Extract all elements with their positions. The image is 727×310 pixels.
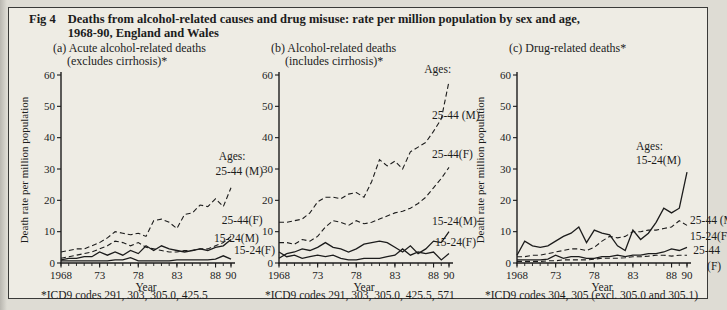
series-line [61, 236, 231, 258]
x-tick-label: 73 [312, 269, 324, 281]
series-label: 25-44 [693, 244, 720, 256]
x-axis-label: Year [135, 281, 156, 293]
panel-a: (a) Acute alcohol-related deaths (exclud… [15, 42, 245, 301]
y-tick-label: 0 [506, 257, 512, 269]
x-tick-label: 73 [94, 269, 106, 281]
panel-c-title: (c) Drug-related deaths* [509, 42, 701, 67]
y-tick-label: 30 [44, 163, 56, 175]
panel-a-title-line1: (a) Acute alcohol-related deaths [53, 41, 206, 55]
series-label: 15-24(M) [636, 154, 681, 167]
series-label: Ages: [424, 63, 451, 76]
panel-a-title-line2: (excludes cirrhosis)* [53, 55, 245, 68]
y-tick-label: 10 [262, 225, 274, 237]
panel-b: (b) Alcohol-related deaths (includes cir… [249, 42, 467, 301]
y-tick-label: 30 [262, 163, 274, 175]
y-tick-label: 30 [500, 163, 512, 175]
x-tick-label: 1968 [50, 269, 73, 281]
series-line [279, 167, 449, 244]
panel-c-ylabel: Death rate per million population [474, 72, 488, 268]
panel-b-title-line1: (b) Alcohol-related deaths [271, 41, 396, 55]
y-tick-label: 60 [500, 69, 512, 81]
panel-c: (c) Drug-related deaths* Death rate per … [471, 42, 701, 301]
x-tick-label: 78 [351, 269, 363, 281]
y-tick-label: 0 [268, 257, 274, 269]
x-tick-label: 88 [210, 269, 222, 281]
x-tick-label: 78 [133, 269, 145, 281]
x-tick-label: 83 [389, 269, 401, 281]
x-tick-label: 1968 [506, 269, 529, 281]
x-axis-label: Year [353, 281, 374, 293]
series-label: 15-24(F) [435, 236, 476, 249]
chart-panels: (a) Acute alcohol-related deaths (exclud… [9, 41, 707, 301]
y-tick-label: 60 [44, 69, 56, 81]
y-tick-label: 40 [262, 131, 274, 143]
figure-caption-line2: 1968-90, England and Wales [68, 26, 219, 40]
figure-caption: Deaths from alcohol-related causes and d… [68, 12, 580, 40]
series-label: Ages: [636, 140, 663, 153]
x-tick-label: 88 [666, 269, 678, 281]
series-label: 15-24(F) [690, 230, 727, 243]
x-tick-label: 90 [226, 269, 238, 281]
figure-title: Fig 4 Deaths from alcohol-related causes… [9, 8, 707, 41]
series-label: (F) [707, 260, 721, 273]
x-tick-label: 83 [627, 269, 639, 281]
series-line [61, 188, 231, 252]
y-tick-label: 0 [50, 257, 56, 269]
figure-box: Fig 4 Deaths from alcohol-related causes… [8, 7, 708, 299]
x-tick-label: 88 [428, 269, 440, 281]
series-label: Ages: [219, 150, 246, 163]
series-line [517, 221, 687, 257]
panel-c-title-line1: (c) Drug-related deaths* [509, 41, 626, 55]
y-tick-label: 20 [44, 194, 56, 206]
x-tick-label: 78 [589, 269, 601, 281]
y-tick-label: 20 [262, 194, 274, 206]
series-label: 25-44(F) [432, 148, 473, 161]
series-line [517, 247, 687, 260]
figure-number: Fig 4 [29, 12, 56, 40]
x-tick-label: 83 [171, 269, 183, 281]
y-tick-label: 40 [44, 131, 56, 143]
panel-c-plot: 010203040506019687378838890YearAges:15-2… [487, 67, 699, 289]
x-tick-label: 1968 [268, 269, 291, 281]
y-tick-label: 40 [500, 131, 512, 143]
y-tick-label: 10 [44, 225, 56, 237]
y-tick-label: 50 [262, 100, 274, 112]
x-tick-label: 90 [444, 269, 456, 281]
y-tick-label: 50 [500, 100, 512, 112]
series-line [61, 240, 231, 260]
series-line [517, 172, 687, 255]
panel-a-title: (a) Acute alcohol-related deaths (exclud… [53, 42, 245, 67]
y-tick-label: 50 [44, 100, 56, 112]
series-line [279, 232, 449, 259]
x-tick-label: 90 [682, 269, 694, 281]
y-tick-label: 10 [500, 225, 512, 237]
x-axis-label: Year [591, 281, 612, 293]
panel-a-ylabel: Death rate per million population [18, 72, 32, 268]
figure-caption-line1: Deaths from alcohol-related causes and d… [68, 12, 580, 26]
y-tick-label: 60 [262, 69, 274, 81]
panel-a-plot: 010203040506019687378838890YearAges:25-4… [31, 67, 243, 289]
y-tick-label: 20 [500, 194, 512, 206]
panel-b-plot: 010203040506019687378838890YearAges:25-4… [249, 67, 461, 289]
x-tick-label: 73 [550, 269, 562, 281]
series-line [279, 81, 449, 222]
series-label: 25-44 (M) [690, 214, 727, 227]
scan-page-edge [0, 0, 7, 310]
